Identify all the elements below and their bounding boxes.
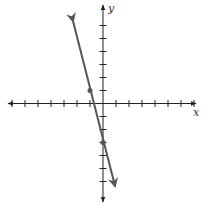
data-point bbox=[101, 140, 106, 145]
x-axis-label: x bbox=[193, 106, 200, 119]
data-point bbox=[88, 88, 93, 93]
coordinate-plane: x y bbox=[0, 0, 204, 206]
y-axis-label: y bbox=[107, 2, 115, 15]
y-axis: y bbox=[100, 2, 116, 202]
